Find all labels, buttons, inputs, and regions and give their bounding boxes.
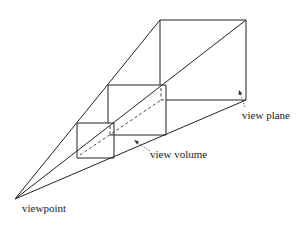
arrow-head-icon	[134, 140, 139, 145]
viewpoint-label: viewpoint	[22, 202, 66, 214]
view-plane-label: view plane	[242, 109, 290, 121]
projector-top-right	[15, 20, 246, 199]
view-volume-label: view volume	[150, 148, 207, 160]
projector-top-left	[15, 20, 160, 199]
near-plane-rect	[77, 123, 114, 158]
hidden-edge	[80, 100, 161, 155]
view-plane-rect	[160, 20, 246, 100]
arrow-head-icon	[239, 90, 243, 95]
diagram-canvas: viewpoint view volume view plane	[0, 0, 302, 226]
projector-lines	[15, 20, 246, 199]
view-plane-pointer	[239, 90, 246, 107]
perspective-diagram: viewpoint view volume view plane	[0, 0, 302, 226]
projector-bottom-right	[15, 100, 246, 199]
middle-plane-rect	[108, 85, 166, 135]
